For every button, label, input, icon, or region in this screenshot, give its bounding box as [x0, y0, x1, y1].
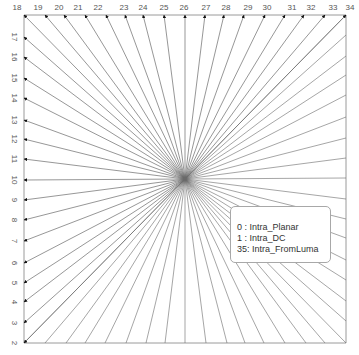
svg-text:28: 28 [222, 3, 231, 12]
svg-text:29: 29 [244, 3, 253, 12]
svg-text:24: 24 [139, 3, 148, 12]
svg-text:23: 23 [120, 3, 129, 12]
svg-text:12: 12 [10, 135, 19, 144]
svg-text:22: 22 [94, 3, 103, 12]
svg-text:20: 20 [55, 3, 64, 12]
svg-text:3: 3 [10, 321, 19, 326]
svg-text:5: 5 [10, 281, 19, 286]
svg-text:17: 17 [10, 33, 19, 42]
svg-text:14: 14 [10, 94, 19, 103]
svg-text:2: 2 [10, 341, 19, 346]
svg-text:4: 4 [10, 300, 19, 305]
svg-text:9: 9 [10, 198, 19, 203]
svg-text:21: 21 [74, 3, 83, 12]
svg-text:31: 31 [288, 3, 297, 12]
svg-text:10: 10 [10, 176, 19, 185]
svg-text:13: 13 [10, 116, 19, 125]
svg-text:11: 11 [10, 155, 19, 164]
legend-item-fromluma: 35: Intra_FromLuma [237, 244, 330, 255]
legend-item-planar: 0 : Intra_Planar [237, 222, 330, 233]
svg-text:7: 7 [10, 239, 19, 244]
svg-text:19: 19 [34, 3, 43, 12]
legend-box: 0 : Intra_Planar 1 : Intra_DC 35: Intra_… [230, 206, 331, 263]
svg-text:8: 8 [10, 218, 19, 223]
svg-text:25: 25 [160, 3, 169, 12]
svg-text:30: 30 [263, 3, 272, 12]
svg-text:27: 27 [202, 3, 211, 12]
svg-text:18: 18 [13, 3, 22, 12]
svg-text:15: 15 [10, 74, 19, 83]
mode-direction-rays [24, 15, 346, 343]
svg-text:16: 16 [10, 53, 19, 62]
intra-mode-diagram: 1819202122232425262728293031323334171615… [0, 0, 359, 355]
legend-item-dc: 1 : Intra_DC [237, 233, 330, 244]
svg-text:34: 34 [346, 3, 355, 12]
svg-text:26: 26 [180, 3, 189, 12]
svg-text:6: 6 [10, 261, 19, 266]
svg-text:33: 33 [329, 3, 338, 12]
svg-text:32: 32 [307, 3, 316, 12]
